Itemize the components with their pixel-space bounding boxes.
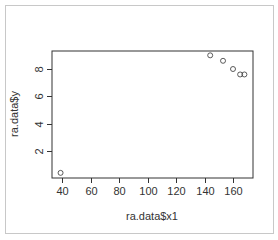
x-tick-label: 160 bbox=[224, 185, 242, 197]
y-axis-label: ra.data$y bbox=[8, 91, 20, 137]
scatter-chart: 406080100120140160 2468 ra.data$x1 ra.da… bbox=[0, 0, 278, 240]
y-tick-label: 6 bbox=[33, 93, 45, 99]
plot-border bbox=[52, 51, 253, 178]
data-point bbox=[221, 58, 226, 63]
x-tick-label: 140 bbox=[196, 185, 214, 197]
x-tick-label: 120 bbox=[167, 185, 185, 197]
x-axis-label: ra.data$x1 bbox=[126, 210, 178, 222]
x-tick-label: 60 bbox=[85, 185, 97, 197]
y-tick-label: 4 bbox=[33, 121, 45, 127]
y-tick-label: 8 bbox=[33, 66, 45, 72]
plot-box bbox=[52, 51, 253, 178]
data-point bbox=[208, 53, 213, 58]
y-axis: 2468 bbox=[33, 66, 52, 154]
y-tick-label: 2 bbox=[33, 148, 45, 154]
x-axis: 406080100120140160 bbox=[56, 178, 242, 197]
x-tick-label: 100 bbox=[139, 185, 157, 197]
data-point bbox=[231, 67, 236, 72]
x-tick-label: 80 bbox=[113, 185, 125, 197]
data-point bbox=[58, 170, 63, 175]
x-tick-label: 40 bbox=[56, 185, 68, 197]
data-points bbox=[58, 53, 247, 176]
